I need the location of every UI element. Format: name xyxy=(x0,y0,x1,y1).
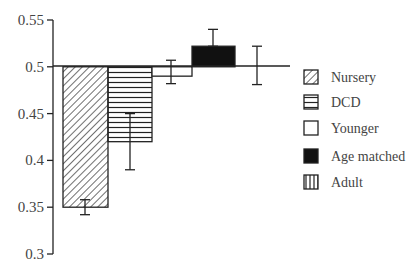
legend-label: Adult xyxy=(331,175,363,190)
error-bar-age-matched xyxy=(208,29,218,46)
y-axis: 0.550.50.450.40.350.3 xyxy=(18,12,53,262)
y-tick-label: 0.4 xyxy=(25,152,44,168)
legend-swatch xyxy=(304,70,318,84)
y-tick-label: 0.5 xyxy=(25,59,44,75)
legend-swatch xyxy=(304,95,318,109)
legend-item-adult: Adult xyxy=(304,175,363,190)
legend-label: Age matched xyxy=(331,149,405,164)
legend-swatch xyxy=(304,149,318,163)
legend-item-dcd: DCD xyxy=(304,95,361,110)
legend-item-age-matched: Age matched xyxy=(304,149,405,164)
legend-swatch xyxy=(304,121,318,135)
legend-label: DCD xyxy=(331,95,361,110)
legend-swatch xyxy=(304,175,318,189)
bar-younger xyxy=(152,67,192,76)
y-tick-label: 0.3 xyxy=(25,246,44,262)
bar-chart: 0.550.50.450.40.350.3 NurseryDCDYoungerA… xyxy=(0,0,416,275)
legend-item-nursery: Nursery xyxy=(304,70,376,85)
y-tick-label: 0.45 xyxy=(18,106,44,122)
legend-item-younger: Younger xyxy=(304,121,379,136)
bar-nursery xyxy=(63,67,108,207)
bars xyxy=(63,46,235,207)
legend-label: Younger xyxy=(331,121,379,136)
bar-age-matched xyxy=(192,46,235,67)
y-tick-label: 0.35 xyxy=(18,199,44,215)
legend: NurseryDCDYoungerAge matchedAdult xyxy=(304,70,405,190)
legend-label: Nursery xyxy=(331,70,376,85)
y-tick-label: 0.55 xyxy=(18,12,44,28)
